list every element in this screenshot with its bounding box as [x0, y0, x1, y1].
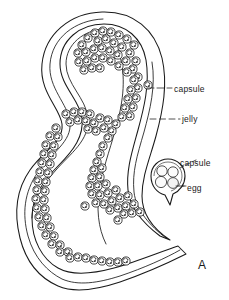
figure-panel: capsule jelly capsule egg A [0, 0, 229, 300]
capsule-chain-middle [62, 108, 144, 224]
capsule-chain-left [32, 124, 130, 266]
label-capsule-detail: capsule [180, 158, 211, 168]
capsule-chain-upper [74, 27, 152, 121]
label-capsule-main: capsule [174, 84, 205, 94]
illustration-canvas [0, 0, 229, 300]
label-jelly: jelly [182, 114, 198, 124]
label-egg: egg [187, 183, 202, 193]
figure-letter: A [198, 258, 206, 272]
